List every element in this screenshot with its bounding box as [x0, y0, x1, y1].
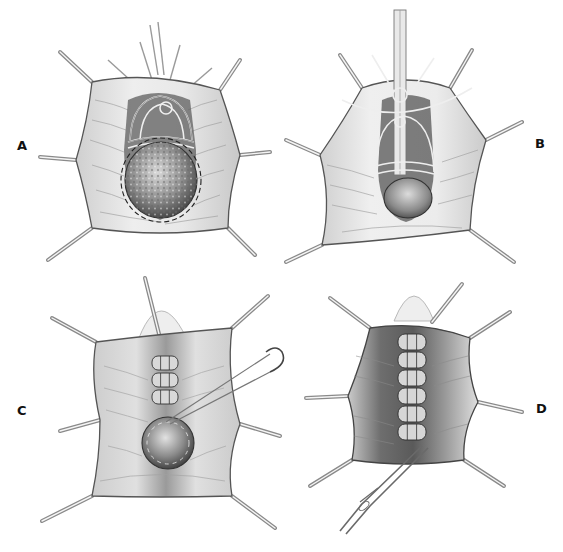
surgical-figure: A — [0, 0, 563, 552]
catheter-tube — [394, 10, 406, 175]
panel-b: B — [282, 0, 563, 276]
panel-a-illustration — [0, 0, 282, 276]
panel-label-a: A — [17, 139, 27, 152]
panel-label-b: B — [535, 137, 545, 150]
panel-c: C — [0, 276, 282, 552]
panel-d-illustration — [282, 276, 563, 552]
mass — [142, 417, 194, 469]
panel-b-illustration — [282, 0, 563, 276]
panel-d: D — [282, 276, 563, 552]
panel-label-d: D — [536, 402, 547, 415]
panel-label-c: C — [17, 404, 27, 417]
panel-a: A — [0, 0, 282, 276]
suture-row — [152, 356, 178, 404]
panel-c-illustration — [0, 276, 282, 552]
